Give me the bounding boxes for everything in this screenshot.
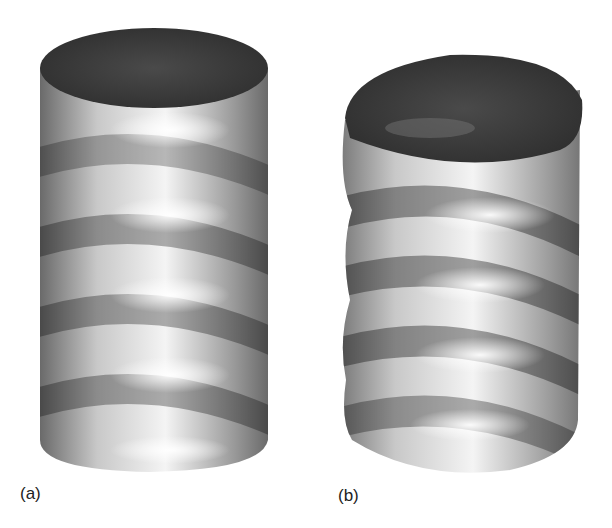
panel-label-a: (a) xyxy=(20,484,41,504)
top-face-b xyxy=(345,55,582,163)
panel-label-b: (b) xyxy=(338,486,359,506)
cylinder-b xyxy=(330,55,590,490)
top-face-a xyxy=(40,28,268,108)
cylinder-a xyxy=(30,28,280,472)
figure-canvas xyxy=(0,0,612,528)
